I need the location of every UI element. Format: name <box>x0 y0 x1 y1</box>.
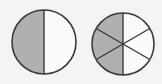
circle-sixths <box>92 13 154 75</box>
shaded-sectors <box>92 13 123 75</box>
circle-halves <box>12 10 76 74</box>
shaded-half <box>12 10 44 74</box>
fraction-diagram <box>0 0 162 84</box>
